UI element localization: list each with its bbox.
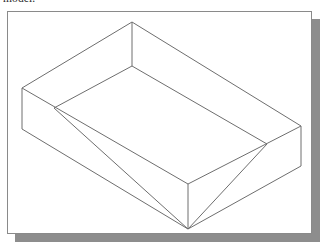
edge-inner-floor-front-left (54, 108, 188, 229)
body-text-fragment: model. (3, 0, 123, 6)
edge-inner-floor-back-right (132, 66, 267, 144)
edge-top-rim-front-left (22, 88, 188, 184)
figure-frame (7, 11, 312, 234)
edge-inner-floor-back-left (54, 66, 132, 108)
edge-bottom-left (22, 129, 188, 229)
isometric-box-wireframe-drawing (8, 12, 311, 233)
edge-inner-floor-front-right (188, 144, 267, 229)
page-root: model. (0, 0, 331, 245)
edge-top-rim-back-left (22, 22, 132, 88)
edge-top-rim-back-right (132, 22, 301, 126)
